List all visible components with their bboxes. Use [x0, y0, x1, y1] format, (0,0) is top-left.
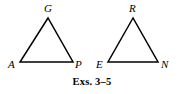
vertex-label-r: R: [128, 2, 136, 14]
figure-caption: Exs. 3–5: [0, 76, 184, 87]
triangle-gap-outline: [20, 18, 73, 62]
vertex-label-g: G: [44, 2, 52, 14]
vertex-label-p: P: [74, 58, 82, 70]
geometry-figure: G A P R E N Exs. 3–5: [0, 0, 184, 94]
triangle-ren-outline: [108, 18, 158, 62]
triangle-ren: R E N: [95, 2, 169, 70]
vertex-label-n: N: [160, 58, 169, 70]
vertex-label-a: A: [7, 58, 15, 70]
triangle-gap: G A P: [7, 2, 82, 70]
vertex-label-e: E: [95, 58, 103, 70]
